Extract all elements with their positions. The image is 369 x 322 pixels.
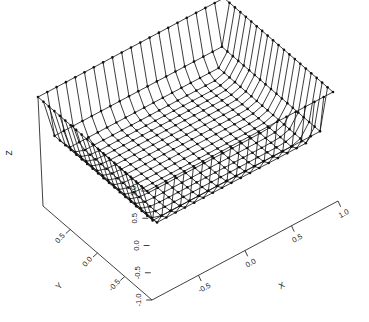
tick-mark [93, 253, 98, 257]
mesh-vertex [193, 114, 196, 117]
mesh-vertex [195, 181, 198, 184]
mesh-vertex [174, 211, 177, 214]
axis-system [38, 97, 338, 300]
mesh-vertex [154, 210, 157, 213]
mesh-vertex [200, 133, 203, 136]
mesh-vertex [291, 107, 294, 110]
mesh-vertex [151, 182, 154, 185]
mesh-vertex [69, 124, 72, 127]
mesh-vertex [64, 144, 67, 147]
mesh-vertex [228, 76, 231, 79]
mesh-vertex [205, 138, 208, 141]
mesh-vertex [104, 154, 107, 157]
mesh-vertex [210, 181, 213, 184]
mesh-vertex [204, 123, 207, 126]
mesh-vertex [182, 105, 185, 108]
mesh-vertex [249, 172, 252, 175]
mesh-vertex [211, 50, 214, 53]
mesh-vertex [163, 114, 166, 117]
mesh-line [120, 69, 306, 209]
x-axis-label: X [277, 279, 287, 291]
mesh-vertex [175, 177, 178, 180]
mesh-vertex [117, 139, 120, 142]
mesh-vertex [100, 163, 103, 166]
mesh-vertex [305, 142, 308, 145]
mesh-vertex [183, 157, 186, 160]
mesh-vertex [197, 195, 200, 198]
mesh-vertex [122, 182, 125, 185]
mesh-vertex [216, 147, 219, 150]
mesh-vertex [264, 83, 267, 86]
mesh-vertex [153, 158, 156, 161]
mesh-vertex [165, 75, 168, 78]
mesh-vertex [142, 187, 145, 190]
mesh-vertex [119, 191, 122, 194]
mesh-vertex [263, 122, 266, 125]
mesh-vertex [189, 82, 192, 85]
mesh-vertex [195, 89, 198, 92]
mesh-vertex [285, 115, 288, 118]
mesh-vertex [102, 139, 105, 142]
mesh-vertex [250, 20, 253, 23]
mesh-vertex [53, 135, 56, 138]
mesh-vertex [234, 81, 237, 84]
mesh-vertex [238, 166, 241, 169]
mesh-vertex [288, 53, 291, 56]
mesh-vertex [275, 146, 278, 149]
mesh-vertex [113, 186, 116, 189]
mesh-vertex [295, 111, 298, 114]
mesh-vertex [140, 210, 143, 213]
mesh-vertex [100, 110, 103, 113]
mesh-vertex [191, 138, 194, 141]
mesh-vertex [237, 113, 240, 116]
mesh-vertex [174, 70, 177, 73]
mesh-vertex [202, 55, 205, 58]
mesh-vertex [250, 137, 253, 140]
mesh-vertex [181, 143, 184, 146]
mesh-vertex [261, 104, 264, 107]
mesh-vertex [89, 153, 92, 156]
mesh-vertex [98, 149, 101, 152]
mesh-vertex [230, 94, 233, 97]
mesh-vertex [181, 181, 184, 184]
mesh-vertex [144, 163, 147, 166]
mesh-vertex [297, 111, 300, 114]
mesh-vertex [210, 90, 213, 93]
z-axis-label: Z [4, 150, 14, 155]
mesh-vertex [184, 206, 187, 209]
mesh-vertex [59, 139, 62, 142]
tick-mark [338, 201, 341, 207]
mesh-vertex [174, 162, 177, 165]
tick-label: -0.5 [107, 277, 122, 293]
mesh-vertex [223, 71, 226, 74]
mesh-vertex [130, 200, 133, 203]
mesh-vertex [242, 64, 245, 67]
mesh-vertex [272, 114, 275, 117]
mesh-vertex [146, 214, 149, 217]
mesh-vertex [173, 201, 176, 204]
mesh-vertex [188, 200, 191, 203]
mesh-vertex [283, 48, 286, 51]
mesh-vertex [211, 104, 214, 107]
mesh-vertex [246, 108, 249, 111]
mesh-vertex [239, 86, 242, 89]
mesh-vertex [257, 117, 260, 120]
mesh-vertex [134, 202, 137, 205]
mesh-vertex [125, 173, 128, 176]
mesh-vertex [152, 101, 155, 104]
mesh-vertex [218, 123, 221, 126]
mesh-line [136, 83, 322, 223]
mesh-vertex [244, 132, 247, 135]
mesh-vertex [178, 205, 181, 208]
mesh-vertex [48, 105, 51, 108]
mesh-vertex [277, 157, 280, 160]
mesh-vertex [288, 128, 291, 131]
mesh-vertex [266, 151, 269, 154]
mesh-line [196, 13, 305, 148]
mesh-vertex [221, 99, 224, 102]
mesh-vertex [253, 127, 256, 130]
mesh-vertex [299, 63, 302, 66]
mesh-vertex [93, 144, 96, 147]
mesh-vertex [277, 118, 280, 121]
mesh-vertex [176, 138, 179, 141]
